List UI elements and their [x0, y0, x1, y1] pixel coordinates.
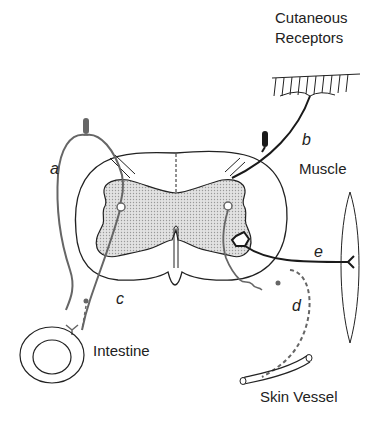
ganglion-a [83, 118, 89, 134]
ganglion-b [262, 131, 268, 147]
skin-vessel [242, 355, 310, 384]
label-receptors: Receptors [275, 29, 343, 46]
pathway-d [262, 270, 310, 377]
label-cutaneous: Cutaneous [275, 9, 348, 26]
diagram-canvas [0, 0, 385, 421]
label-skin-vessel: Skin Vessel [260, 388, 338, 405]
label-pathway-c: c [116, 290, 124, 308]
label-muscle: Muscle [299, 160, 347, 177]
muscle [341, 192, 359, 343]
label-intestine: Intestine [93, 342, 150, 359]
spinal-reflex-diagram: Cutaneous Receptors Muscle Intestine Ski… [0, 0, 385, 421]
cutaneous-receptors [272, 74, 360, 96]
label-pathway-d: d [292, 297, 301, 315]
label-pathway-e: e [314, 243, 323, 261]
label-pathway-b: b [302, 131, 311, 149]
label-pathway-a: a [50, 160, 59, 178]
